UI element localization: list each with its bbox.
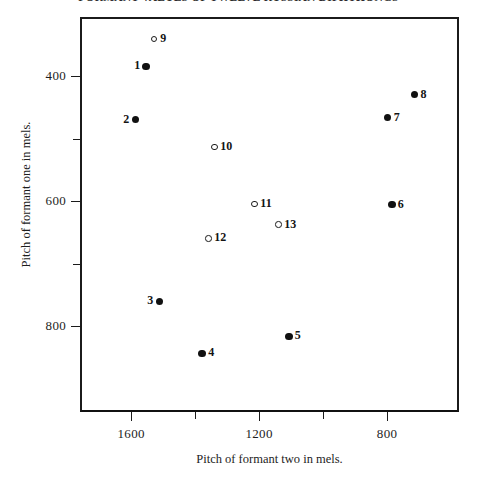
- filled-circle-icon: [384, 114, 392, 122]
- y-tick-700: [73, 264, 80, 265]
- y-axis-label: Pitch of formant one in mels.: [19, 0, 34, 395]
- y-axis-label-wrap: Pitch of formant one in mels.: [18, 17, 32, 412]
- filled-circle-icon: [411, 91, 419, 99]
- open-circle-icon: [151, 36, 158, 43]
- plot-area: 400600800 16001200800 12345678910111213: [80, 17, 459, 412]
- x-tick-1000: [323, 412, 324, 419]
- data-point-label-11: 11: [260, 197, 271, 209]
- x-tick-1400: [195, 412, 196, 419]
- x-tick-label-1200: 1200: [229, 426, 289, 442]
- y-tick-600: [71, 201, 80, 202]
- x-axis-label: Pitch of formant two in mels.: [80, 452, 459, 467]
- scatter-plot-figure: FORMANT VALUES OF TWELVE RUSSIAN DIPHTHO…: [0, 0, 477, 477]
- filled-circle-icon: [388, 201, 396, 209]
- data-point-label-13: 13: [284, 218, 296, 230]
- x-tick-1600: [131, 412, 132, 421]
- filled-circle-icon: [156, 298, 164, 306]
- open-circle-icon: [275, 221, 282, 228]
- filled-circle-icon: [198, 350, 206, 358]
- data-point-label-6: 6: [398, 198, 404, 210]
- y-tick-500: [73, 139, 80, 140]
- data-point-label-8: 8: [421, 88, 427, 100]
- data-point-label-4: 4: [208, 346, 214, 358]
- x-tick-800: [387, 412, 388, 421]
- filled-circle-icon: [132, 116, 140, 124]
- filled-circle-icon: [142, 63, 150, 71]
- data-point-label-1: 1: [134, 59, 140, 71]
- data-point-label-3: 3: [147, 294, 153, 306]
- open-circle-icon: [211, 144, 218, 151]
- data-point-label-10: 10: [220, 140, 232, 152]
- data-point-label-7: 7: [394, 111, 400, 123]
- x-tick-1200: [259, 412, 260, 421]
- data-point-label-5: 5: [295, 329, 301, 341]
- x-tick-label-800: 800: [357, 426, 417, 442]
- x-tick-label-1600: 1600: [101, 426, 161, 442]
- open-circle-icon: [251, 201, 258, 208]
- chart-title: FORMANT VALUES OF TWELVE RUSSIAN DIPHTHO…: [0, 0, 477, 2]
- data-point-label-12: 12: [214, 231, 226, 243]
- filled-circle-icon: [285, 333, 293, 341]
- open-circle-icon: [205, 235, 212, 242]
- data-point-label-9: 9: [160, 32, 166, 44]
- y-tick-400: [71, 76, 80, 77]
- data-point-label-2: 2: [123, 113, 129, 125]
- y-tick-800: [71, 326, 80, 327]
